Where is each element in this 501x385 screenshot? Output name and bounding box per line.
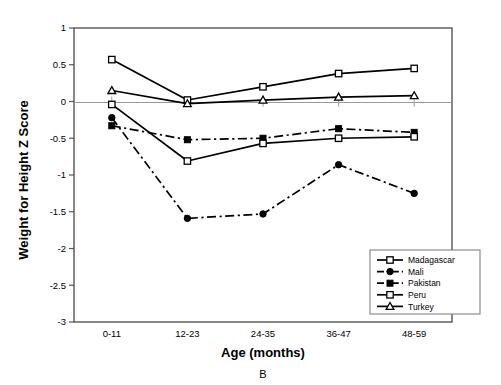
data-point-open-square bbox=[387, 257, 393, 263]
marker-filled-square bbox=[109, 123, 115, 129]
data-point-filled-square bbox=[184, 137, 190, 143]
data-point-filled-square bbox=[336, 126, 342, 132]
y-axis-title-label: Weight for Height Z Score bbox=[16, 100, 31, 259]
y-tick-label: -1 bbox=[58, 169, 66, 180]
data-point-filled-square bbox=[387, 280, 393, 286]
x-tick-label: 24-35 bbox=[251, 328, 275, 339]
data-point-open-square bbox=[109, 56, 115, 62]
marker-open-square bbox=[260, 140, 266, 146]
y-tick-label: -2.5 bbox=[50, 280, 66, 291]
x-tick-label: 36-47 bbox=[326, 328, 350, 339]
y-tick-label: -3 bbox=[58, 316, 66, 327]
data-point-open-square bbox=[335, 135, 341, 141]
x-tick-label: 0-11 bbox=[103, 328, 121, 339]
panel-letter: B bbox=[259, 368, 266, 380]
data-point-filled-circle bbox=[184, 215, 190, 221]
marker-filled-circle bbox=[411, 190, 417, 196]
data-point-open-square bbox=[184, 158, 190, 164]
legend-label-mali: Mali bbox=[408, 267, 424, 277]
data-point-filled-circle bbox=[335, 162, 341, 168]
marker-open-square bbox=[387, 257, 393, 263]
legend-label-pakistan: Pakistan bbox=[408, 278, 441, 288]
legend-item-madagascar: Madagascar bbox=[377, 255, 455, 265]
marker-filled-circle bbox=[109, 114, 115, 120]
data-point-open-square bbox=[260, 84, 266, 90]
x-tick-label: 12-23 bbox=[175, 328, 199, 339]
data-point-open-square bbox=[260, 140, 266, 146]
data-point-filled-circle bbox=[387, 268, 393, 274]
legend-label-turkey: Turkey bbox=[408, 302, 434, 312]
chart-legend: MadagascarMaliPakistanPeruTurkey bbox=[370, 250, 480, 314]
chart-figure: Weight for Height Z Score 10.50-0.5-1-1.… bbox=[0, 0, 501, 385]
data-point-open-square bbox=[411, 134, 417, 140]
marker-open-square bbox=[335, 70, 341, 76]
data-point-open-square bbox=[387, 292, 393, 298]
marker-open-square bbox=[387, 292, 393, 298]
marker-filled-circle bbox=[387, 268, 393, 274]
data-point-filled-circle bbox=[260, 211, 266, 217]
marker-filled-square bbox=[387, 280, 393, 286]
y-axis-title: Weight for Height Z Score bbox=[16, 100, 31, 259]
marker-filled-circle bbox=[335, 162, 341, 168]
marker-open-square bbox=[260, 84, 266, 90]
marker-open-square bbox=[411, 65, 417, 71]
legend-label-madagascar: Madagascar bbox=[408, 255, 455, 265]
marker-open-square bbox=[109, 101, 115, 107]
x-axis-title: Age (months) bbox=[221, 345, 305, 360]
marker-open-square bbox=[109, 56, 115, 62]
panel-letter-label: B bbox=[259, 368, 266, 380]
marker-filled-circle bbox=[184, 215, 190, 221]
data-point-open-square bbox=[109, 101, 115, 107]
data-point-open-square bbox=[335, 70, 341, 76]
legend-label-peru: Peru bbox=[408, 290, 426, 300]
data-point-open-square bbox=[411, 65, 417, 71]
data-point-filled-square bbox=[109, 123, 115, 129]
y-tick-label: -0.5 bbox=[50, 133, 66, 144]
weight-for-height-z-score-line-chart: Weight for Height Z Score 10.50-0.5-1-1.… bbox=[0, 0, 501, 385]
y-tick-label: -2 bbox=[58, 243, 66, 254]
marker-open-square bbox=[411, 134, 417, 140]
y-tick-label: 1 bbox=[61, 22, 66, 33]
marker-filled-circle bbox=[260, 211, 266, 217]
y-tick-label: 0 bbox=[61, 96, 66, 107]
marker-open-square bbox=[335, 135, 341, 141]
marker-filled-square bbox=[184, 137, 190, 143]
y-tick-label: -1.5 bbox=[50, 206, 66, 217]
x-tick-label: 48-59 bbox=[402, 328, 426, 339]
data-point-filled-circle bbox=[109, 114, 115, 120]
y-tick-label: 0.5 bbox=[53, 59, 66, 70]
marker-filled-square bbox=[336, 126, 342, 132]
x-axis-title-label: Age (months) bbox=[221, 345, 305, 360]
marker-open-square bbox=[184, 158, 190, 164]
data-point-filled-circle bbox=[411, 190, 417, 196]
